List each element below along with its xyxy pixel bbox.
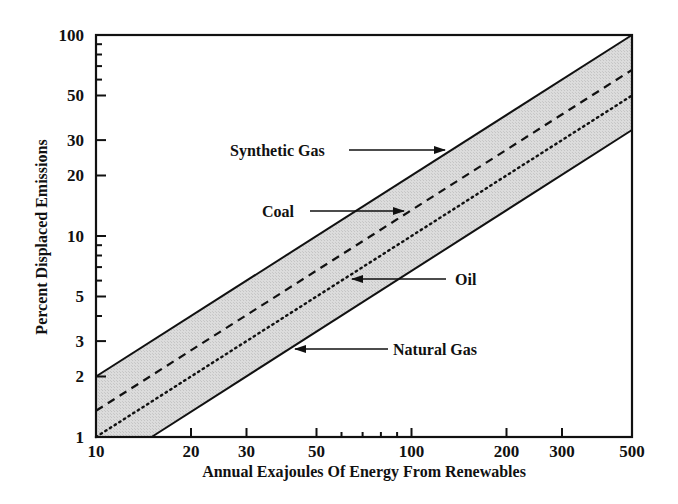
synthetic-gas-line [96,35,632,377]
y-axis-title: Percent Displaced Emissions [33,139,51,334]
y-axis-ticks [96,44,106,376]
natural-gas-line [152,130,632,437]
y-tick-10: 10 [67,227,84,246]
x-tick-300: 300 [549,442,575,461]
y-tick-50: 50 [67,86,84,105]
annotation-coal: Coal [262,203,295,220]
x-tick-labels: 10 20 30 50 100 200 300 500 [88,442,645,461]
x-tick-200: 200 [494,442,520,461]
x-tick-500: 500 [619,442,645,461]
annotation-natural-gas: Natural Gas [393,341,477,358]
y-tick-1: 1 [76,428,85,447]
x-tick-50: 50 [308,442,325,461]
y-tick-5: 5 [76,287,85,306]
y-tick-20: 20 [67,166,84,185]
annotation-oil: Oil [455,271,477,288]
x-axis-ticks [191,428,562,437]
x-tick-20: 20 [183,442,200,461]
x-tick-30: 30 [238,442,255,461]
y-tick-2: 2 [76,367,85,386]
y-tick-labels: 1 2 3 5 10 20 30 50 100 [59,26,85,447]
y-tick-3: 3 [76,332,85,351]
y-tick-100: 100 [59,26,85,45]
annotation-synthetic-gas: Synthetic Gas [230,142,325,160]
y-tick-30: 30 [67,131,84,150]
x-tick-100: 100 [399,442,425,461]
x-axis-title: Annual Exajoules Of Energy From Renewabl… [202,463,526,481]
shaded-band [96,35,632,437]
chart: 1 2 3 5 10 20 30 50 100 10 20 30 50 100 … [0,0,678,504]
x-tick-10: 10 [88,442,105,461]
